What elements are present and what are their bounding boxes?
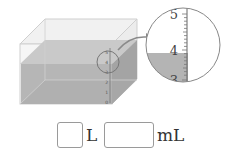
svg-text:0: 0: [105, 100, 108, 105]
magnified-scale: 5 4 3: [140, 0, 230, 100]
milliliters-input-box[interactable]: [104, 122, 154, 148]
water-tank-figure: 0 1 2 3 4 5: [0, 0, 234, 110]
milliliters-unit-label: mL: [157, 125, 184, 145]
liters-input-box[interactable]: [57, 122, 83, 148]
liters-unit-label: L: [86, 125, 97, 145]
svg-text:1: 1: [105, 90, 108, 95]
svg-text:2: 2: [105, 80, 108, 85]
svg-text:4: 4: [170, 43, 178, 58]
svg-text:4: 4: [105, 60, 108, 65]
answer-row: L mL: [0, 118, 234, 150]
tank-illustration: 0 1 2 3 4 5: [0, 0, 234, 110]
